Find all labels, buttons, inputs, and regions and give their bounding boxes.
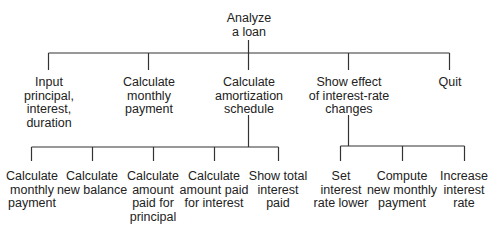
node-amort-interest: Calculate amount paid for interest [180,170,249,211]
node-rate-lower: Set interest rate lower [314,170,369,211]
node-show-effect: Show effect of interest-rate changes [309,76,390,117]
root-node: Analyze a loan [227,12,271,39]
node-rate-increase: Increase interest rate [440,170,488,211]
node-amort-new-balance: Calculate new balance [57,170,127,197]
node-calculate-amortization: Calculate amortization schedule [215,76,283,117]
node-quit: Quit [439,76,462,90]
node-rate-new-payment: Compute new monthly payment [367,170,437,211]
node-amort-principal: Calculate amount paid for principal [127,170,179,224]
node-input-principal: Input principal, interest, duration [24,76,74,130]
node-amort-monthly-payment: Calculate monthly payment [6,170,58,211]
node-amort-total-interest: Show total interest paid [249,170,307,211]
node-calculate-monthly-payment: Calculate monthly payment [123,76,175,117]
